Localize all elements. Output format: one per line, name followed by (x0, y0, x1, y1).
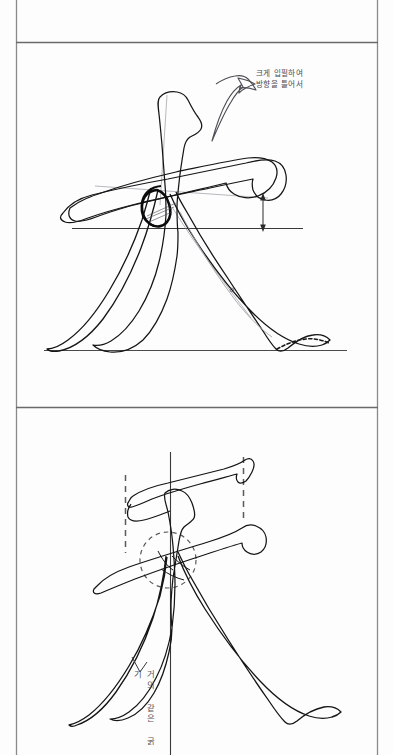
page-frame (17, 0, 378, 755)
stroke-outline-top-horizontal (69, 158, 277, 222)
stroke-outline-top-horizontal-b (128, 459, 255, 521)
stroke-intersection-knot (142, 186, 176, 226)
scanned-page: 크게 입필하여 방향을 틀어서 거의 같은 굵기 (0, 0, 393, 755)
panel-bottom (16, 408, 378, 755)
annotation-top-line-2: 방향을 틀어서 (256, 80, 303, 91)
dashed-edge-highlight (277, 339, 329, 349)
annotation-top-line-1: 크게 입필하여 (256, 69, 303, 80)
stroke-outline-right-sweep (170, 192, 330, 351)
construction-lines (95, 95, 268, 318)
direction-arrow (212, 76, 256, 141)
calligraphy-diagram-canvas (0, 0, 393, 755)
panel-top (16, 43, 378, 353)
height-dimension-arrow (260, 193, 266, 232)
stroke-outline-right-sweep-b (178, 552, 341, 724)
annotation-bottom-panel: 거의 같은 굵기 (136, 670, 156, 755)
annotation-top-panel: 크게 입필하여 방향을 틀어서 (256, 69, 303, 90)
